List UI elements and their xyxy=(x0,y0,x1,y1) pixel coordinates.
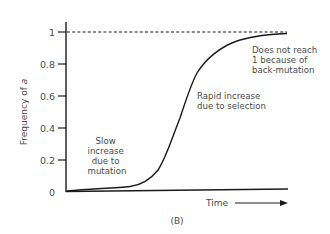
y-tick-label-0.4: 0.4 xyxy=(40,123,55,134)
y-tick-label-0.8: 0.8 xyxy=(40,59,55,70)
y-tick-label-1: 1 xyxy=(49,27,55,38)
annotation-slow-increase: Slow increase due to mutation xyxy=(88,136,127,176)
y-axis-title: Frequency of a xyxy=(19,79,29,145)
annotation-slow-line-1: Slow xyxy=(96,136,116,146)
annotation-rapid-increase: Rapid increase due to selection xyxy=(197,91,266,111)
y-tick-label-0.2: 0.2 xyxy=(40,155,55,166)
y-axis-title-variable: a xyxy=(19,79,29,85)
y-tick-label-0.6: 0.6 xyxy=(40,91,55,102)
annotation-slow-line-2: increase xyxy=(88,146,124,156)
time-arrow-head-icon xyxy=(280,200,288,206)
x-axis-title: Time xyxy=(205,198,228,208)
y-tick-label-0: 0 xyxy=(49,187,55,198)
annotation-backmut-line-2: 1 because of xyxy=(252,55,308,65)
annotation-rapid-line-2: due to selection xyxy=(197,101,266,111)
annotation-backmut-line-3: back-mutation xyxy=(252,65,314,75)
y-axis-title-prefix: Frequency of xyxy=(19,84,29,145)
y-axis-ticks xyxy=(58,32,66,160)
mutation-selection-chart: Frequency of a 1 0.8 0.6 0.4 0.2 0 Slow … xyxy=(0,0,330,234)
annotation-rapid-line-1: Rapid increase xyxy=(197,91,260,101)
annotation-backmut-line-1: Does not reach xyxy=(252,45,317,55)
annotation-slow-line-4: mutation xyxy=(88,166,127,176)
annotation-back-mutation: Does not reach 1 because of back-mutatio… xyxy=(252,45,320,75)
panel-label: (B) xyxy=(170,216,183,226)
annotation-slow-line-3: due to xyxy=(92,156,120,166)
